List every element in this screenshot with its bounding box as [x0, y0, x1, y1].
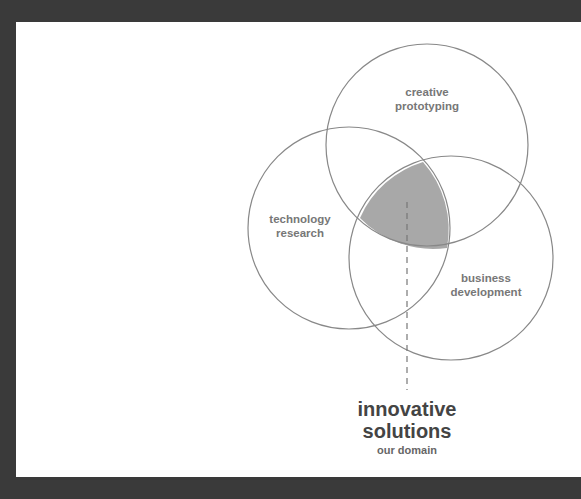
venn-diagram — [0, 0, 581, 499]
label-line: creative — [395, 86, 459, 100]
label-creative-prototyping: creative prototyping — [395, 86, 459, 113]
label-line: business — [451, 272, 522, 286]
caption-title-line2: solutions — [358, 420, 457, 442]
label-line: technology — [269, 213, 330, 227]
label-business-development: business development — [451, 272, 522, 299]
label-technology-research: technology research — [269, 213, 330, 240]
caption-subtitle: our domain — [358, 442, 457, 458]
label-line: research — [269, 227, 330, 241]
label-line: prototyping — [395, 100, 459, 114]
label-line: development — [451, 286, 522, 300]
caption-title-line1: innovative — [358, 398, 457, 420]
intersection-caption: innovative solutions our domain — [358, 398, 457, 458]
white-canvas — [16, 22, 581, 477]
